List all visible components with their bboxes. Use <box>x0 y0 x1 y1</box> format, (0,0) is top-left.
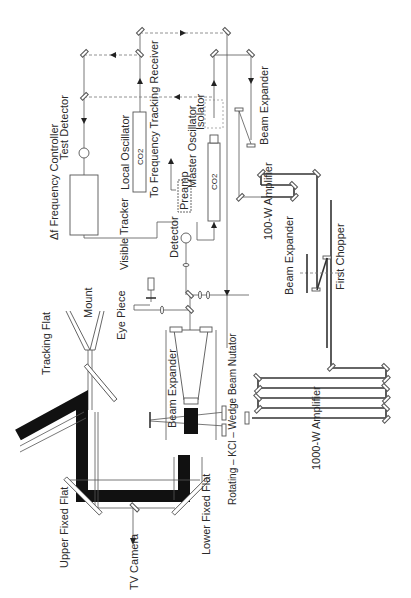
visible-tracker: Visible Tracker <box>118 198 156 302</box>
kcl-wedge-beam-nutator: Rotating – KCl – Wedge Beam Nutator <box>222 333 249 505</box>
svg-text:Tracking Flat: Tracking Flat <box>40 312 52 375</box>
svg-text:Beam Expander: Beam Expander <box>258 66 270 145</box>
svg-text:Beam Expander: Beam Expander <box>166 349 178 428</box>
svg-text:Upper Fixed Flat: Upper Fixed Flat <box>58 487 70 568</box>
optical-system-diagram: Test Detector Δf Frequency Controller Lo… <box>0 0 411 598</box>
svg-text:Mount: Mount <box>82 287 94 318</box>
svg-text:CO2: CO2 <box>136 148 145 165</box>
svg-text:TV Camera: TV Camera <box>128 533 140 590</box>
oscillator-beam-paths <box>80 27 254 348</box>
svg-text:First Chopper: First Chopper <box>334 223 346 290</box>
svg-text:Detector: Detector <box>168 216 180 258</box>
svg-text:Local Oscillator: Local Oscillator <box>119 114 131 190</box>
lower-fixed-flat: Lower Fixed Flat <box>172 474 212 555</box>
isolator: Isolator <box>194 94 223 130</box>
svg-text:1000-W Amplifier: 1000-W Amplifier <box>310 386 322 470</box>
svg-text:Isolator: Isolator <box>194 94 206 130</box>
svg-text:Visible Tracker: Visible Tracker <box>118 198 130 270</box>
chopper-assembly: Beam Expander First Chopper <box>283 216 346 348</box>
svg-text:Δf Frequency Controller: Δf Frequency Controller <box>48 123 60 240</box>
svg-text:Eye Piece: Eye Piece <box>115 290 127 340</box>
local-oscillator: Local Oscillator CO2 <box>119 112 146 192</box>
svg-text:Lower Fixed Flat: Lower Fixed Flat <box>200 474 212 555</box>
svg-text:To Frequency Tracking Receiver: To Frequency Tracking Receiver <box>148 40 160 198</box>
frequency-tracking-receiver-output: To Frequency Tracking Receiver <box>148 40 176 198</box>
amplifier-100w: 100-W Amplifier <box>236 162 320 290</box>
svg-text:CO2: CO2 <box>210 173 219 190</box>
svg-text:Rotating – KCl – Wedge Beam Nu: Rotating – KCl – Wedge Beam Nutator <box>227 333 238 505</box>
detector: Detector <box>168 216 191 295</box>
svg-text:Beam Expander: Beam Expander <box>283 216 295 295</box>
tv-camera: TV Camera <box>128 503 140 590</box>
relay-optics <box>186 290 249 330</box>
tracking-flat: Tracking Flat <box>40 312 117 402</box>
